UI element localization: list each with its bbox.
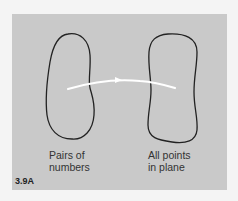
mapping-arrow: [68, 80, 175, 89]
figure-number: 3.9A: [15, 176, 34, 186]
arrowhead-icon: [115, 77, 122, 83]
right-label-line2: in plane: [148, 161, 191, 173]
left-label-line2: numbers: [49, 161, 90, 173]
right-set-label: All points in plane: [148, 149, 191, 173]
left-label-line1: Pairs of: [49, 149, 90, 161]
mapping-diagram: [0, 0, 238, 201]
right-label-line1: All points: [148, 149, 191, 161]
left-set-label: Pairs of numbers: [49, 149, 90, 173]
left-set-outline: [46, 34, 94, 139]
